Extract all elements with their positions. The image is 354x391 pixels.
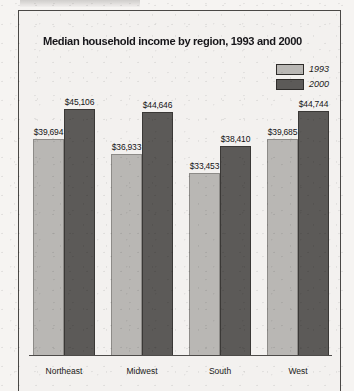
bar-value-label-west-2000: $44,744 [293, 99, 334, 109]
bar-midwest-2000 [142, 112, 173, 356]
bar-midwest-1993 [111, 154, 142, 356]
bar-south-2000 [220, 146, 251, 356]
figure-panel: Median household income by region, 1993 … [18, 10, 341, 391]
category-label-northeast: Northeast [33, 366, 95, 376]
x-axis-baseline [29, 355, 332, 357]
category-label-south: South [189, 366, 251, 376]
bar-northeast-2000 [64, 109, 95, 356]
category-label-west: West [267, 366, 329, 376]
bar-value-label-northeast-2000: $45,106 [59, 97, 100, 107]
bar-value-label-northeast-1993: $39,694 [28, 127, 69, 137]
bar-south-1993 [189, 173, 220, 356]
cut-off-header-fragment [20, 0, 140, 7]
plot-area: $39,694$45,106Northeast$36,933$44,646Mid… [19, 11, 342, 391]
bar-west-1993 [267, 139, 298, 356]
bar-northeast-1993 [33, 139, 64, 356]
category-label-midwest: Midwest [111, 366, 173, 376]
bar-value-label-midwest-1993: $36,933 [106, 142, 147, 152]
bar-value-label-south-2000: $38,410 [215, 134, 256, 144]
bar-value-label-west-1993: $39,685 [262, 127, 303, 137]
bar-west-2000 [298, 111, 329, 356]
bar-value-label-midwest-2000: $44,646 [137, 100, 178, 110]
bar-value-label-south-1993: $33,453 [184, 161, 225, 171]
